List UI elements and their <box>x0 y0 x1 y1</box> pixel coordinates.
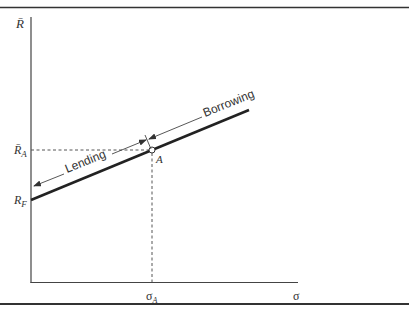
capital-market-line-diagram: R̄ R̄A RF A Lending Borrowing σA σ <box>0 0 409 310</box>
ra-label: R̄A <box>13 143 27 159</box>
point-a-marker <box>149 147 155 153</box>
lending-arrow <box>34 174 64 186</box>
point-a-label: A <box>155 153 163 165</box>
rf-label: RF <box>13 193 27 209</box>
sigma-a-label: σA <box>146 289 157 305</box>
lending-borrowing-divider <box>145 135 151 149</box>
lending-arrow-right <box>112 140 146 154</box>
borrowing-arrow <box>149 117 202 139</box>
capital-market-line <box>31 110 249 200</box>
y-axis-label: R̄ <box>15 16 24 31</box>
borrowing-label: Borrowing <box>201 87 256 120</box>
x-axis-label: σ <box>293 289 300 303</box>
